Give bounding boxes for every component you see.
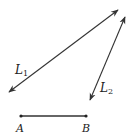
label-a: A (15, 122, 24, 135)
line-l1 (9, 10, 118, 92)
label-b: B (81, 122, 90, 135)
point-a (19, 114, 22, 117)
point-b (84, 114, 87, 117)
geometry-diagram: L1 L2 A B (0, 0, 129, 138)
label-l1: L1 (14, 63, 28, 78)
label-l2: L2 (99, 81, 113, 96)
